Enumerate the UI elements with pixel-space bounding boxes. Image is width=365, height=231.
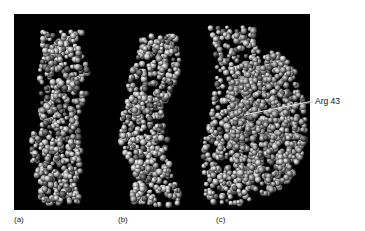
panel-label-a: (a) <box>14 216 24 224</box>
dna-model-b <box>118 33 182 208</box>
dna-model-a <box>29 29 90 206</box>
panel-label-b: (b) <box>118 216 128 224</box>
dna-protein-complex-c <box>201 25 308 206</box>
panel-label-c: (c) <box>216 216 225 224</box>
figure-image-panel <box>14 14 310 210</box>
arg43-annotation-label: Arg 43 <box>315 96 340 106</box>
molecular-models-graphic <box>14 14 310 210</box>
